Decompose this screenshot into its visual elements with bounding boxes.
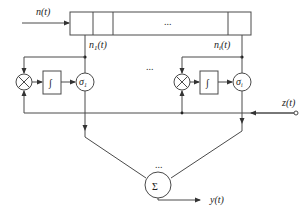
sum-icon: Σ xyxy=(152,181,158,192)
reference-label: z(t) xyxy=(281,97,296,109)
branch-i: ni(t) ∫ σi xyxy=(171,35,251,178)
multiplier-i xyxy=(174,74,190,90)
output-arrow xyxy=(158,198,200,200)
reference-junction-dot xyxy=(181,112,184,115)
summer-ellipsis: ... xyxy=(155,159,163,170)
to-summer-line-i xyxy=(171,123,242,178)
output-label: y(t) xyxy=(209,194,225,206)
tap-label-1: n1(t) xyxy=(89,39,108,52)
delay-line: ... xyxy=(70,12,251,35)
branches-ellipsis: ... xyxy=(146,61,154,72)
to-summer-line-1 xyxy=(85,130,146,178)
integrator-i xyxy=(200,71,218,94)
multiplier-1 xyxy=(16,74,32,90)
delay-line-box xyxy=(70,12,251,35)
integrator-1 xyxy=(43,71,61,94)
reference-terminal xyxy=(294,111,298,115)
summer xyxy=(145,172,171,198)
delay-ellipsis: ... xyxy=(164,16,172,27)
adaptive-filter-diagram: n(t) ... n1(t) ∫ σ1 ... xyxy=(0,0,304,208)
input-label: n(t) xyxy=(36,6,51,18)
branch-1: n1(t) ∫ σ1 xyxy=(16,35,146,178)
tap-label-i: ni(t) xyxy=(214,39,231,52)
